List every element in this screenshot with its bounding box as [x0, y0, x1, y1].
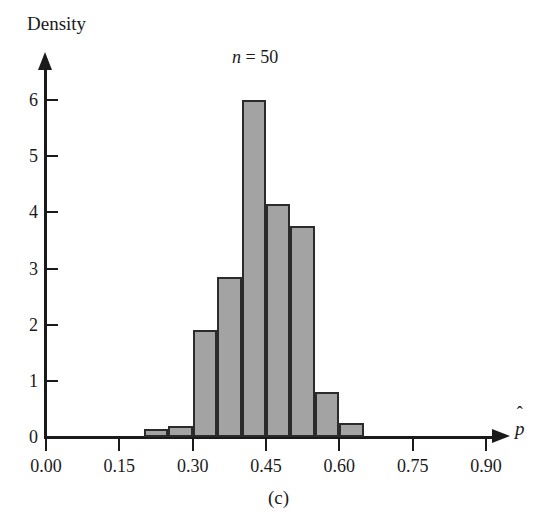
histogram-bar [168, 426, 192, 437]
histogram-bars [0, 0, 557, 522]
histogram-figure: Density n = 50 0123456 0.000.150.300.450… [0, 0, 557, 522]
histogram-bar [242, 100, 266, 437]
p-hat-symbol: p [515, 419, 525, 438]
histogram-bar [144, 429, 168, 437]
histogram-bar [339, 423, 363, 437]
figure-caption: (c) [0, 488, 557, 507]
histogram-bar [217, 277, 241, 437]
histogram-bar [315, 392, 339, 437]
x-axis-variable-label: p [515, 419, 525, 438]
histogram-bar [290, 226, 314, 437]
histogram-bar [266, 204, 290, 437]
histogram-bar [193, 330, 217, 437]
